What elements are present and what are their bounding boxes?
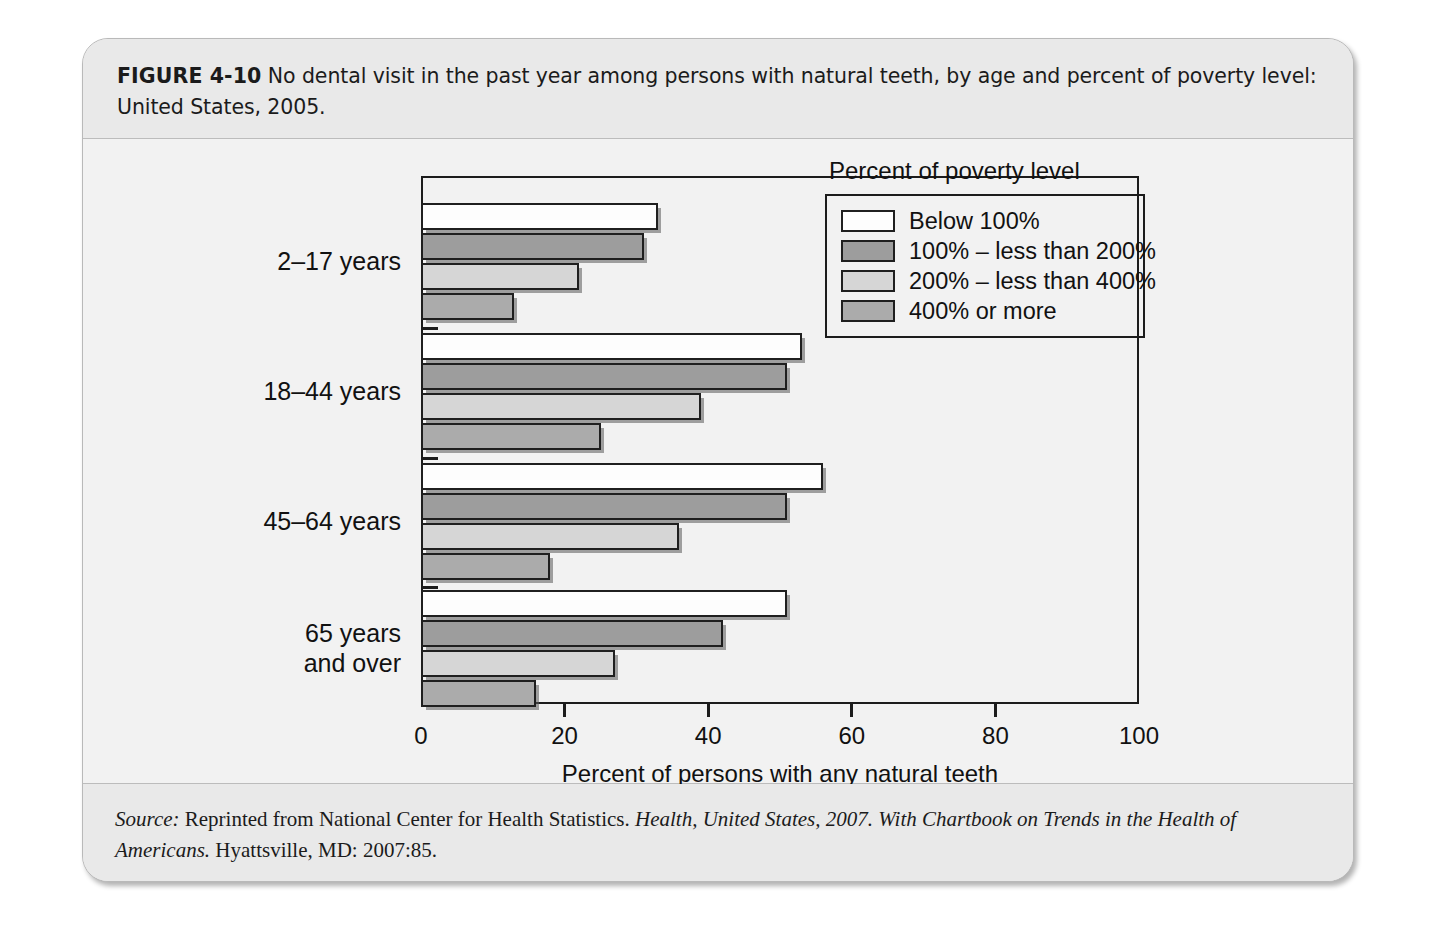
category-label-2: 45–64 years: [101, 506, 401, 536]
bar-3-0: [421, 590, 787, 617]
legend-item-2: 200% – less than 400%: [841, 266, 1131, 296]
bar-3-2: [421, 650, 615, 677]
category-label-line: and over: [101, 648, 401, 678]
bar-0-1: [421, 233, 644, 260]
x-axis-tick-label-2: 40: [695, 722, 722, 750]
source-band: Source: Reprinted from National Center f…: [83, 784, 1353, 881]
chart-area: 2–17 years18–44 years45–64 years65 years…: [83, 139, 1353, 784]
y-axis-tick-0: [421, 327, 438, 330]
figure-caption-text: No dental visit in the past year among p…: [117, 64, 1317, 119]
source-part-2: Hyattsville, MD: 2007:85.: [210, 838, 437, 862]
bar-2-2: [421, 523, 679, 550]
x-axis-tick-2: [707, 704, 710, 717]
figure-card: FIGURE 4-10 No dental visit in the past …: [82, 38, 1354, 882]
bar-1-2: [421, 393, 701, 420]
legend-swatch-icon-3: [841, 300, 895, 322]
bar-3-3: [421, 680, 536, 707]
category-label-3: 65 yearsand over: [101, 618, 401, 678]
legend-label-0: Below 100%: [909, 208, 1040, 235]
x-axis-tick-label-3: 60: [838, 722, 865, 750]
legend-item-3: 400% or more: [841, 296, 1131, 326]
legend-label-3: 400% or more: [909, 298, 1057, 325]
category-label-line: 18–44 years: [101, 376, 401, 406]
x-axis-tick-3: [850, 704, 853, 717]
bar-0-0: [421, 203, 658, 230]
legend-label-1: 100% – less than 200%: [909, 238, 1156, 265]
source-note: Source: Reprinted from National Center f…: [115, 804, 1321, 866]
category-label-1: 18–44 years: [101, 376, 401, 406]
bar-1-0: [421, 333, 802, 360]
category-label-0: 2–17 years: [101, 246, 401, 276]
bar-1-3: [421, 423, 601, 450]
bar-2-0: [421, 463, 823, 490]
y-axis-tick-1: [421, 457, 438, 460]
category-label-line: 45–64 years: [101, 506, 401, 536]
legend-title: Percent of poverty level: [825, 157, 1145, 185]
source-part-1: Reprinted from National Center for Healt…: [180, 807, 635, 831]
bar-0-2: [421, 263, 579, 290]
bar-1-1: [421, 363, 787, 390]
x-axis-tick-1: [563, 704, 566, 717]
x-axis-tick-label-1: 20: [551, 722, 578, 750]
legend-swatch-icon-2: [841, 270, 895, 292]
legend: Percent of poverty level Below 100%100% …: [825, 157, 1145, 338]
legend-swatch-icon-0: [841, 210, 895, 232]
figure-caption: FIGURE 4-10 No dental visit in the past …: [117, 61, 1319, 123]
bar-0-3: [421, 293, 514, 320]
legend-box: Below 100%100% – less than 200%200% – le…: [825, 194, 1145, 338]
figure-number: FIGURE 4-10: [117, 64, 261, 88]
source-prefix: Source:: [115, 807, 180, 831]
figure-caption-band: FIGURE 4-10 No dental visit in the past …: [83, 39, 1353, 139]
x-axis-tick-label-4: 80: [982, 722, 1009, 750]
y-axis-tick-2: [421, 586, 438, 589]
bar-3-1: [421, 620, 723, 647]
x-axis-tick-4: [994, 704, 997, 717]
legend-item-1: 100% – less than 200%: [841, 236, 1131, 266]
legend-label-2: 200% – less than 400%: [909, 268, 1156, 295]
bar-2-3: [421, 553, 550, 580]
bar-2-1: [421, 493, 787, 520]
legend-item-0: Below 100%: [841, 206, 1131, 236]
category-label-line: 65 years: [101, 618, 401, 648]
x-axis-tick-label-0: 0: [414, 722, 427, 750]
chart-stage: 2–17 years18–44 years45–64 years65 years…: [83, 139, 1353, 783]
category-label-line: 2–17 years: [101, 246, 401, 276]
x-axis-tick-label-5: 100: [1119, 722, 1159, 750]
legend-swatch-icon-1: [841, 240, 895, 262]
